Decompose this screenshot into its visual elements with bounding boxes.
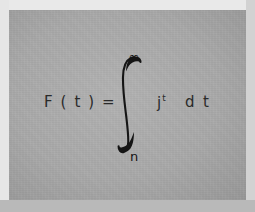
integrand-base: j (157, 94, 161, 112)
paper-canvas: F ( t ) = ∞ n jt d t (9, 10, 246, 200)
integral-sign-icon (113, 56, 155, 156)
page-frame-left (0, 0, 9, 212)
equation-container: F ( t ) = ∞ n jt d t (9, 10, 246, 200)
integrand-exponent: t (162, 93, 166, 103)
formula-screenshot: F ( t ) = ∞ n jt d t (0, 0, 255, 212)
equation-left-side: F ( t ) = (44, 93, 116, 111)
integral-lower-limit: n (113, 150, 155, 164)
integral-group: ∞ n (113, 50, 155, 170)
page-frame-right (246, 0, 255, 212)
differential-term: d t (185, 93, 211, 111)
page-frame-bottom (0, 200, 255, 212)
integrand-expression: jt (157, 93, 165, 112)
page-frame-top (0, 0, 255, 10)
